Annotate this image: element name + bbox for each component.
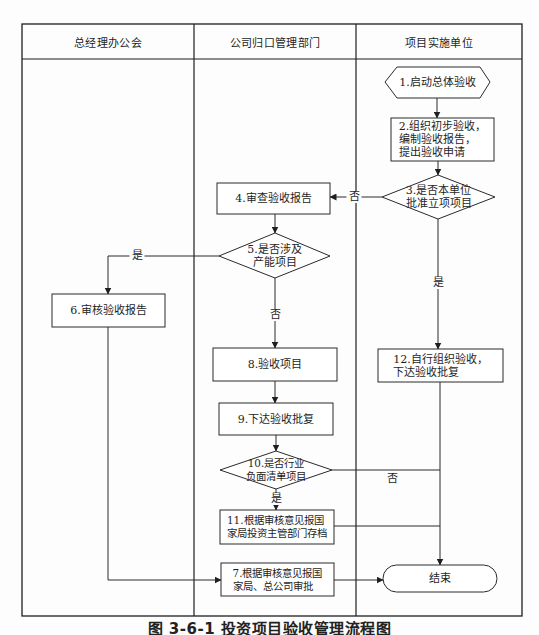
edge-n6-n7 xyxy=(108,327,221,580)
edge-label-n10-end: 否 xyxy=(385,473,400,485)
lane-header-implementing-unit: 项目实施单位 xyxy=(356,24,522,59)
decision-diamond-n5 xyxy=(219,233,330,278)
lane-header-management-department: 公司归口管理部门 xyxy=(194,24,356,59)
process-box-n12 xyxy=(378,349,503,382)
lane-header-general-manager-office: 总经理办公会 xyxy=(22,24,194,59)
end-terminator xyxy=(383,565,497,592)
process-box-n6 xyxy=(52,294,165,327)
process-box-n7 xyxy=(221,563,334,596)
edge-label-n3-n4: 否 xyxy=(347,191,362,203)
edge-label-n10-n11: 是 xyxy=(269,493,284,505)
decision-diamond-n3 xyxy=(382,175,495,219)
process-box-n4 xyxy=(217,183,330,214)
edge-label-n3-n12: 是 xyxy=(431,277,446,289)
process-box-n2 xyxy=(391,118,494,161)
start-hexagon-n1 xyxy=(385,67,490,98)
edge-label-n5-n6: 是 xyxy=(130,250,145,262)
decision-diamond-n10 xyxy=(220,451,332,489)
edge-n5-n6 xyxy=(108,256,219,294)
flowchart-page: 总经理办公会 公司归口管理部门 项目实施单位 1.启动总体验收 2.组织初步验收… xyxy=(0,0,539,635)
edge-label-n5-n8: 否 xyxy=(268,309,283,321)
process-box-n11 xyxy=(220,510,334,544)
process-box-n9 xyxy=(219,403,333,435)
figure-caption: 图 3-6-1 投资项目验收管理流程图 xyxy=(0,621,539,635)
process-box-n8 xyxy=(213,348,337,381)
